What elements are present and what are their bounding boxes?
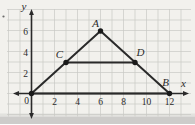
bottom-shadow [0, 117, 195, 125]
point-a-label: A [91, 17, 99, 29]
x-tick-8: 8 [121, 97, 126, 107]
y-axis-label: y [21, 0, 27, 12]
point-origin-dot [29, 91, 34, 96]
point-c-label: C [56, 48, 64, 60]
x-axis-label: x [180, 77, 186, 89]
point-b-dot [167, 91, 172, 96]
point-d-dot [132, 60, 137, 65]
point-b-label: B [162, 76, 169, 88]
point-c-dot [63, 60, 68, 65]
bottom-shadow-fade [0, 114, 195, 117]
stray-mark [2, 15, 4, 17]
point-a-dot [98, 28, 103, 33]
x-tick-10: 10 [142, 97, 152, 107]
x-tick-4: 4 [75, 97, 80, 107]
y-tick-2: 2 [23, 69, 28, 79]
coordinate-plane-figure: A B C D y x 0 2 4 6 8 10 12 6 4 2 [0, 0, 195, 124]
point-d-label: D [136, 46, 145, 58]
x-tick-2: 2 [52, 97, 57, 107]
figure-canvas: A B C D y x 0 2 4 6 8 10 12 6 4 2 [0, 0, 195, 124]
x-tick-6: 6 [98, 97, 103, 107]
y-tick-6: 6 [23, 27, 28, 37]
x-tick-12: 12 [165, 97, 175, 107]
origin-tick-label: 0 [24, 96, 29, 106]
y-tick-4: 4 [23, 48, 28, 58]
